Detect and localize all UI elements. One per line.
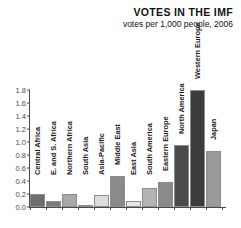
bar-group: Western Europe bbox=[190, 90, 206, 207]
bar-group: East Asia bbox=[126, 90, 142, 207]
bar[interactable] bbox=[30, 194, 45, 207]
bar-group: Northern Africa bbox=[62, 90, 78, 207]
bar[interactable] bbox=[94, 195, 109, 207]
bar-category-label: Japan bbox=[210, 119, 218, 140]
bar[interactable] bbox=[158, 182, 173, 207]
bar-category-label: Eastern Europe bbox=[162, 116, 170, 171]
bar-category-label: Central Africa bbox=[34, 127, 42, 175]
page-title: VOTES IN THE IMF bbox=[0, 6, 233, 18]
chart-figure: VOTES IN THE IMF votes per 1,000 people,… bbox=[0, 0, 241, 228]
x-axis-tick-mark bbox=[94, 207, 95, 210]
bar-category-label: E. and S. Africa bbox=[50, 121, 58, 175]
x-axis-tick-mark bbox=[174, 207, 175, 210]
bar-group: South Asia bbox=[78, 90, 94, 207]
x-axis-tick-mark bbox=[62, 207, 63, 210]
x-axis-line bbox=[29, 207, 226, 208]
bar-group: South America bbox=[142, 90, 158, 207]
x-axis-tick-mark bbox=[206, 207, 207, 210]
bar-group: Central Africa bbox=[30, 90, 46, 207]
x-axis-tick-mark bbox=[110, 207, 111, 210]
bar-group: North America bbox=[174, 90, 190, 207]
bar[interactable] bbox=[206, 151, 221, 207]
bar-category-label: North America bbox=[178, 84, 186, 135]
bar-category-label: Asia-Pacific bbox=[98, 133, 106, 175]
bar-series: Central AfricaE. and S. AfricaNorthern A… bbox=[30, 90, 222, 207]
bar[interactable] bbox=[78, 205, 93, 207]
x-axis-tick-mark bbox=[142, 207, 143, 210]
bar-category-label: East Asia bbox=[130, 142, 138, 175]
x-axis-tick-mark bbox=[126, 207, 127, 210]
x-axis-tick-mark bbox=[78, 207, 79, 210]
bar[interactable] bbox=[126, 201, 141, 208]
plot-area: 0.00.20.40.60.81.01.21.41.61.8 Central A… bbox=[30, 90, 222, 207]
bar-category-label: Western Europe bbox=[194, 22, 202, 79]
bar[interactable] bbox=[46, 201, 61, 208]
bar-group: E. and S. Africa bbox=[46, 90, 62, 207]
x-axis-tick-mark bbox=[190, 207, 191, 210]
bar[interactable] bbox=[174, 145, 189, 207]
x-axis-tick-mark bbox=[158, 207, 159, 210]
bar-group: Eastern Europe bbox=[158, 90, 174, 207]
bar[interactable] bbox=[190, 90, 205, 207]
bar-category-label: Northern Africa bbox=[66, 121, 74, 175]
x-axis-tick-mark bbox=[222, 207, 223, 210]
bar[interactable] bbox=[62, 194, 77, 207]
bar-group: Japan bbox=[206, 90, 222, 207]
bar-category-label: Middle East bbox=[114, 124, 122, 165]
x-axis-tick-mark bbox=[46, 207, 47, 210]
x-axis-tick-mark bbox=[30, 207, 31, 210]
bar-category-label: South Asia bbox=[82, 137, 90, 175]
bar-group: Middle East bbox=[110, 90, 126, 207]
bar[interactable] bbox=[142, 188, 157, 207]
bar-category-label: South America bbox=[146, 123, 154, 175]
bar-group: Asia-Pacific bbox=[94, 90, 110, 207]
bar[interactable] bbox=[110, 176, 125, 207]
